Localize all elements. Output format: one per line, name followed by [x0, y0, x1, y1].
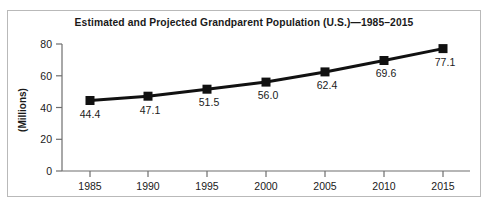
- data-label-1995: 51.5: [199, 96, 220, 108]
- y-tick-label-60: 60: [40, 70, 52, 82]
- x-tick-label-1985: 1985: [78, 180, 102, 192]
- data-point-2000[interactable]: [262, 78, 271, 87]
- data-label-2010: 69.6: [376, 67, 397, 79]
- x-axis-tick-labels: 1985 1990 1995 2000 2005 2010 2015: [78, 180, 455, 192]
- data-point-1990[interactable]: [144, 92, 153, 101]
- y-tick-label-20: 20: [40, 133, 52, 145]
- x-tick-label-2015: 2015: [431, 180, 455, 192]
- data-point-1995[interactable]: [203, 85, 212, 94]
- chart-plot: 80 60 40 20 0 (Millions) 1985 1990 1995 …: [0, 0, 490, 206]
- x-tick-label-2000: 2000: [254, 180, 278, 192]
- x-axis-ticks: [90, 171, 443, 177]
- x-tick-label-1995: 1995: [195, 180, 219, 192]
- data-label-1990: 47.1: [140, 104, 161, 116]
- figure-container: Estimated and Projected Grandparent Popu…: [0, 0, 490, 206]
- y-axis-ticks: [56, 44, 62, 171]
- x-tick-label-2005: 2005: [313, 180, 337, 192]
- data-label-2015: 77.1: [435, 56, 456, 68]
- data-point-1985[interactable]: [86, 96, 95, 105]
- y-tick-label-40: 40: [40, 102, 52, 114]
- data-label-2005: 62.4: [317, 79, 338, 91]
- data-label-1985: 44.4: [80, 108, 101, 120]
- data-point-2015[interactable]: [439, 44, 448, 53]
- y-tick-label-0: 0: [46, 165, 52, 177]
- data-label-2000: 56.0: [258, 89, 279, 101]
- data-point-2005[interactable]: [321, 67, 330, 76]
- x-tick-label-2010: 2010: [372, 180, 396, 192]
- y-axis-title: (Millions): [17, 88, 28, 132]
- data-point-2010[interactable]: [380, 56, 389, 65]
- y-tick-label-80: 80: [40, 38, 52, 50]
- y-axis-tick-labels: 80 60 40 20 0: [40, 38, 52, 177]
- data-point-labels: 44.4 47.1 51.5 56.0 62.4 69.6 77.1: [80, 56, 456, 120]
- x-tick-label-1990: 1990: [136, 180, 160, 192]
